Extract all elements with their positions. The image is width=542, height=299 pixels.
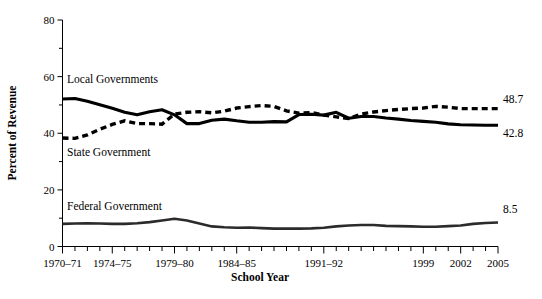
x-tick-label: 2002 xyxy=(450,257,472,269)
endpoint-value-local-governments: 42.8 xyxy=(503,127,523,139)
x-tick-label: 1991–92 xyxy=(305,257,344,269)
series-label-local-governments: Local Governments xyxy=(67,73,159,85)
x-tick-label: 1979–80 xyxy=(155,257,194,269)
y-axis-title: Percent of Revenue xyxy=(6,86,18,181)
endpoint-value-state-government: 48.7 xyxy=(503,93,523,105)
x-axis-title: School Year xyxy=(231,271,289,283)
x-tick-label: 1970–71 xyxy=(43,257,82,269)
revenue-by-source-line-chart: 020406080 1970–711974–751979–801984–8519… xyxy=(0,0,542,299)
series-label-federal-government: Federal Government xyxy=(67,200,163,212)
x-tick-label: 1984–85 xyxy=(217,257,256,269)
y-tick-label: 20 xyxy=(44,184,56,196)
endpoint-value-federal-government: 8.5 xyxy=(503,203,518,215)
y-tick-label: 40 xyxy=(44,127,56,139)
x-tick-label: 1999 xyxy=(412,257,435,269)
chart-canvas: 020406080 1970–711974–751979–801984–8519… xyxy=(0,0,542,299)
x-tick-label: 1974–75 xyxy=(93,257,132,269)
y-tick-label: 0 xyxy=(49,241,55,253)
y-tick-label: 80 xyxy=(44,14,56,26)
x-tick-label: 2005 xyxy=(487,257,510,269)
y-tick-label: 60 xyxy=(44,71,56,83)
series-label-state-government: State Government xyxy=(67,146,151,158)
